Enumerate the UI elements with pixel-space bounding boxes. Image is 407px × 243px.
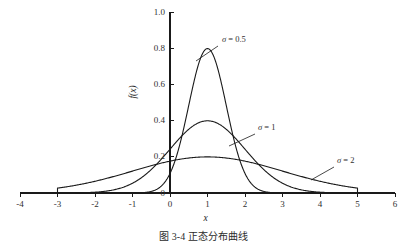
y-tick-label: 0.2	[141, 151, 165, 161]
curve-sigma-2	[58, 157, 358, 188]
y-tick-label: 1.0	[141, 7, 165, 17]
x-tick-label: -4	[9, 199, 31, 209]
x-axis-title: x	[204, 213, 208, 223]
y-tick-label: 0.6	[141, 79, 165, 89]
figure-caption: 图 3-4 正态分布曲线	[0, 228, 407, 243]
x-tick-label: -1	[122, 199, 144, 209]
x-tick-label: 2	[234, 199, 256, 209]
x-tick-label: 1	[197, 199, 219, 209]
y-tick-label: 0.8	[141, 43, 165, 53]
x-tick-label: 5	[347, 199, 369, 209]
x-tick-label: 4	[309, 199, 331, 209]
y-tick-label: 0	[141, 188, 165, 198]
series-label-sigma-2: σ = 2	[337, 155, 355, 165]
series-label-sigma-1: σ = 1	[258, 122, 276, 132]
x-tick-label: -3	[47, 199, 69, 209]
y-tick-label: 0.4	[141, 115, 165, 125]
y-axis-title: f(x)	[128, 77, 138, 107]
x-tick-label: 6	[384, 199, 406, 209]
x-tick-label: -2	[84, 199, 106, 209]
series-label-sigma-0.5: σ = 0.5	[222, 34, 246, 44]
x-tick-label: 3	[272, 199, 294, 209]
x-tick-label: 0	[159, 199, 181, 209]
curves-group	[58, 49, 358, 193]
axes-group	[20, 12, 395, 197]
leader-line-sigma-2	[311, 167, 334, 180]
